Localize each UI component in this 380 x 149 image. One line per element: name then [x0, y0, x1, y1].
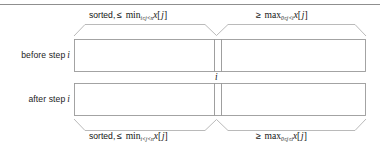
figure-vector-layer	[0, 0, 380, 149]
brace-top	[74, 25, 366, 37]
formula-before-left-prefix: sorted,	[89, 10, 115, 20]
formula-after-right-subscript: 0≤j≤i	[281, 136, 293, 142]
selection-sort-invariant-figure: before step i after step i i sorted, ≤ m…	[0, 0, 380, 149]
formula-after-left: sorted, ≤ mini<j<nx[ j]	[89, 131, 168, 141]
bar-after-current-cell	[215, 84, 222, 116]
formula-after-left-operator: min	[126, 130, 141, 141]
bar-after-unsorted-segment	[222, 84, 366, 116]
brace-bottom-left	[74, 119, 217, 131]
formula-after-right: ≥ max0≤j≤ix[ j]	[256, 131, 307, 141]
formula-before-right-subscript: 0≤j<i	[281, 15, 294, 21]
bar-before-sorted-segment	[75, 40, 215, 72]
bar-before-current-cell	[215, 40, 222, 72]
formula-before-left: sorted, ≤ mini≤j<nx[ j]	[89, 10, 167, 20]
row-label-before-step: before step i	[8, 50, 70, 60]
brace-top-right	[217, 25, 367, 37]
formula-after-left-subscript: i<j<n	[141, 136, 154, 142]
brace-top-left	[74, 25, 217, 37]
bar-before-unsorted-segment	[222, 40, 366, 72]
row-label-before-step-text: before step	[21, 50, 65, 60]
row-label-after-step-text: after step	[28, 94, 65, 104]
bar-after-step	[75, 84, 366, 116]
row-label-before-step-var: i	[67, 50, 70, 60]
brace-bottom-right	[217, 119, 367, 131]
bar-before-step	[75, 40, 366, 72]
formula-before-right-operator: max	[265, 9, 282, 20]
brace-bottom	[74, 119, 366, 131]
bar-after-sorted-segment	[75, 84, 215, 116]
formula-after-right-operator: max	[265, 130, 282, 141]
formula-before-left-subscript: i≤j<n	[141, 15, 154, 21]
formula-before-right: ≥ max0≤j<ix[ j]	[256, 10, 308, 20]
row-label-after-step: after step i	[8, 94, 70, 104]
center-index-marker: i	[215, 72, 218, 82]
formula-after-left-prefix: sorted,	[89, 131, 115, 141]
row-label-after-step-var: i	[67, 94, 70, 104]
formula-before-left-operator: min	[126, 9, 141, 20]
